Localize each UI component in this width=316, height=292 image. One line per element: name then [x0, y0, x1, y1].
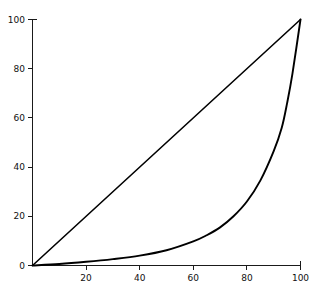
y-tick-label-40: 40	[14, 162, 26, 172]
x-tick-label-60: 60	[188, 273, 200, 283]
x-tick-label-100: 100	[292, 273, 309, 283]
y-tick-label-0: 0	[19, 261, 25, 271]
x-tick-label-20: 20	[80, 273, 92, 283]
chart-figure: 0 20 40 60 80 100 20 40 60 80 100	[0, 0, 316, 292]
y-tick-label-20: 20	[14, 211, 26, 221]
y-tick-label-100: 100	[8, 15, 25, 25]
y-tick-label-60: 60	[14, 113, 26, 123]
x-tick-label-40: 40	[134, 273, 146, 283]
plot-background	[0, 0, 316, 292]
x-tick-label-80: 80	[241, 273, 253, 283]
lorenz-curve-plot: 0 20 40 60 80 100 20 40 60 80 100	[0, 0, 316, 292]
y-tick-label-80: 80	[14, 64, 26, 74]
